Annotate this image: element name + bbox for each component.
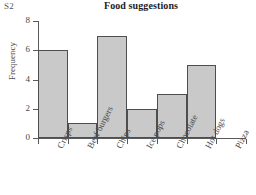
y-axis-label: Frequency — [7, 26, 17, 96]
chart-figure: S2 Food suggestions Frequency 02468 Cris… — [0, 0, 256, 195]
chart-title: Food suggestions — [0, 0, 256, 11]
y-tick-label: 0 — [16, 133, 30, 142]
x-tick-mark — [38, 139, 39, 144]
y-tick-label: 8 — [16, 16, 30, 25]
y-tick-label: 2 — [16, 104, 30, 113]
bar — [38, 50, 68, 138]
y-tick-label: 4 — [16, 75, 30, 84]
y-tick-label: 6 — [16, 45, 30, 54]
